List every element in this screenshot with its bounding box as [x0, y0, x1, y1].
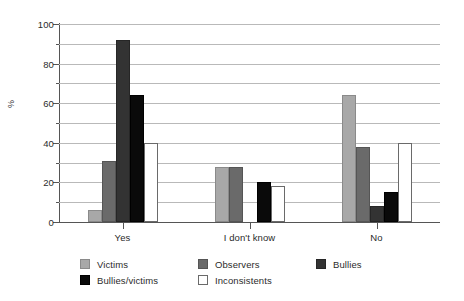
bar-observers-yes [102, 161, 116, 222]
bar-observers-i-don-t-know [229, 167, 243, 222]
legend-swatch-bullies-icon [316, 259, 326, 269]
bar-victims-no [342, 95, 356, 222]
y-tick-label: 40 [8, 137, 54, 148]
y-axis-ticks: 020406080100 [0, 0, 54, 301]
legend-item-inconsistents[interactable]: Inconsistents [198, 272, 316, 288]
x-axis-label-i-don-t-know: I don't know [224, 232, 276, 243]
gridline [59, 24, 440, 25]
y-tick-label: 80 [8, 58, 54, 69]
bar-bullies-victims-i-don-t-know [257, 182, 271, 222]
bar-inconsistents-yes [144, 143, 158, 222]
legend-swatch-bulliesvictims-icon [80, 275, 90, 285]
legend-swatch-inconsistents-icon [198, 275, 208, 285]
legend-label: Inconsistents [215, 275, 272, 286]
plot-area [59, 24, 440, 222]
bar-victims-i-don-t-know [215, 167, 229, 222]
bar-inconsistents-i-don-t-know [271, 186, 285, 222]
legend-label: Bullies [333, 259, 362, 270]
x-axis-label-no: No [370, 232, 382, 243]
legend-label: Observers [215, 259, 260, 270]
legend-swatch-observers-icon [198, 259, 208, 269]
chart-legend: VictimsObserversBulliesBullies/victimsIn… [80, 256, 410, 288]
x-tick-mark [123, 223, 124, 229]
legend-row: VictimsObserversBullies [80, 256, 410, 272]
y-tick-label: 100 [8, 19, 54, 30]
legend-item-victims[interactable]: Victims [80, 256, 198, 272]
legend-label: Bullies/victims [97, 275, 158, 286]
legend-item-bullies[interactable]: Bullies [316, 256, 410, 272]
y-tick-label: 60 [8, 98, 54, 109]
bar-bullies-no [370, 206, 384, 222]
legend-item-observers[interactable]: Observers [198, 256, 316, 272]
x-tick-mark [250, 223, 251, 229]
bar-bullies-yes [116, 40, 130, 222]
bar-bullies-victims-yes [130, 95, 144, 222]
bar-inconsistents-no [398, 143, 412, 222]
legend-swatch-victims-icon [80, 259, 90, 269]
x-tick-mark [377, 223, 378, 229]
legend-item-bulliesvictims[interactable]: Bullies/victims [80, 272, 198, 288]
bar-victims-yes [88, 210, 102, 222]
bar-bullies-victims-no [384, 192, 398, 222]
y-tick-label: 0 [8, 217, 54, 228]
legend-label: Victims [97, 259, 128, 270]
bar-chart: % 020406080100 YesI don't knowNo Victims… [0, 0, 464, 301]
x-axis-label-yes: Yes [115, 232, 131, 243]
y-tick-label: 20 [8, 177, 54, 188]
legend-row: Bullies/victimsInconsistents [80, 272, 410, 288]
bar-observers-no [356, 147, 370, 222]
